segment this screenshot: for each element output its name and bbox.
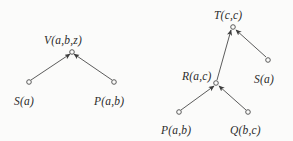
left-tree-root-label: V(a,b,z) bbox=[44, 35, 82, 47]
left-tree-edges bbox=[31, 54, 112, 80]
node-marker-right-leaf-Q bbox=[246, 110, 251, 115]
node-marker-left-leaf-left bbox=[27, 80, 32, 85]
edge-layer bbox=[0, 0, 293, 141]
node-marker-left-root bbox=[70, 50, 75, 55]
right-tree-leaf-P-label: P(a,b) bbox=[161, 125, 191, 137]
node-marker-right-leaf-S bbox=[266, 58, 271, 63]
figure-canvas: V(a,b,z) S(a) P(a,b) T(c,c) R(a,c) S(a) … bbox=[0, 0, 293, 141]
right-tree-inner-label: R(a,c) bbox=[182, 71, 212, 83]
node-marker-left-leaf-right bbox=[112, 80, 117, 85]
edge-S-to-V bbox=[31, 54, 70, 80]
node-marker-right-leaf-P bbox=[177, 110, 182, 115]
edge-P-to-V bbox=[74, 54, 112, 80]
left-tree-leaf-right-label: P(a,b) bbox=[94, 96, 124, 108]
node-marker-right-root bbox=[231, 25, 236, 30]
edge-P-to-R bbox=[181, 86, 214, 110]
edge-Q-to-R bbox=[219, 86, 246, 110]
edge-R-to-T bbox=[217, 30, 231, 80]
left-tree-leaf-left-label: S(a) bbox=[14, 96, 34, 108]
right-tree-leaf-S-label: S(a) bbox=[254, 74, 274, 86]
right-tree-leaf-Q-label: Q(b,c) bbox=[230, 125, 261, 137]
right-tree-root-label: T(c,c) bbox=[214, 10, 242, 22]
edge-S-to-T bbox=[236, 30, 266, 57]
node-marker-right-inner-R bbox=[214, 81, 219, 86]
